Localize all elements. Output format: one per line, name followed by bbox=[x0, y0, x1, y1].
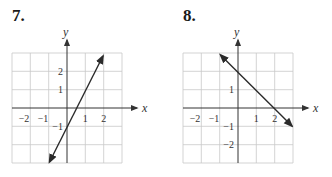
graph-panel-8: 8. x y −2 −1 1 2 1 −1 −2 bbox=[166, 0, 332, 177]
svg-text:2: 2 bbox=[58, 66, 63, 77]
svg-text:−1: −1 bbox=[209, 113, 220, 124]
x-axis-label: x bbox=[141, 101, 148, 115]
svg-text:1: 1 bbox=[229, 84, 234, 95]
svg-text:−1: −1 bbox=[52, 121, 63, 132]
svg-text:−2: −2 bbox=[190, 113, 201, 124]
svg-text:2: 2 bbox=[272, 113, 277, 124]
svg-text:−2: −2 bbox=[19, 113, 30, 124]
svg-text:1: 1 bbox=[83, 113, 88, 124]
y-axis-label: y bbox=[62, 25, 69, 39]
coordinate-graph: x y −2 −1 1 2 2 1 −1 bbox=[0, 0, 166, 177]
svg-text:−1: −1 bbox=[223, 121, 234, 132]
graph-panel-7: 7. x y −2 −1 1 2 2 1 −1 bbox=[0, 0, 166, 177]
svg-text:1: 1 bbox=[58, 84, 63, 95]
coordinate-graph: x y −2 −1 1 2 1 −1 −2 bbox=[166, 0, 332, 177]
svg-text:1: 1 bbox=[254, 113, 259, 124]
x-axis-label: x bbox=[312, 101, 319, 115]
y-axis-label: y bbox=[233, 25, 240, 39]
svg-text:−2: −2 bbox=[223, 139, 234, 150]
svg-text:−1: −1 bbox=[38, 113, 49, 124]
svg-text:2: 2 bbox=[101, 113, 106, 124]
